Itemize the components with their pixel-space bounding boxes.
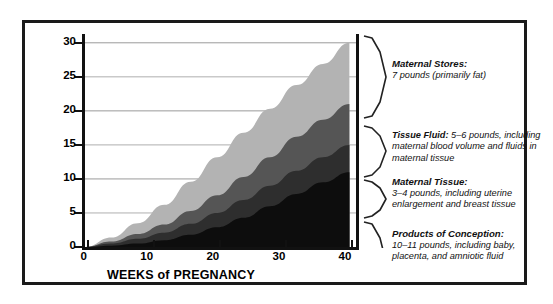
x-tick-label: 10 bbox=[127, 250, 153, 262]
legend-body: 3–4 pounds, including uterine enlargemen… bbox=[392, 188, 542, 211]
y-axis-line bbox=[82, 34, 85, 249]
y-tick-label: 30 bbox=[52, 36, 76, 47]
legend-entry-tissue-fluid: Tissue Fluid: 5–6 pounds, including mate… bbox=[392, 130, 542, 164]
brace-products-of-conception bbox=[362, 164, 388, 248]
legend-heading: Maternal Stores: bbox=[392, 58, 542, 70]
y-tick-label: 25 bbox=[52, 70, 76, 81]
y-tick-label: 5 bbox=[52, 206, 76, 217]
x-tick-label: 30 bbox=[259, 250, 285, 262]
x-tick bbox=[351, 240, 353, 249]
legend-heading: Products of Conception: bbox=[392, 228, 542, 240]
x-tick-label: 40 bbox=[325, 250, 351, 262]
legend-entry-products-of-conception: Products of Conception: 10–11 pounds, in… bbox=[392, 228, 542, 262]
y-tick-label: 20 bbox=[52, 104, 76, 115]
brace-maternal-stores bbox=[362, 34, 388, 120]
x-tick bbox=[87, 240, 89, 249]
x-tick-label: 20 bbox=[193, 250, 219, 262]
plot-area bbox=[85, 36, 356, 247]
legend-body: 10–11 pounds, including baby, placenta, … bbox=[392, 240, 542, 263]
legend: Maternal Stores: 7 pounds (primarily fat… bbox=[362, 34, 540, 250]
x-tick bbox=[153, 240, 155, 249]
y-tick-label: 10 bbox=[52, 172, 76, 183]
legend-heading: Maternal Tissue: bbox=[392, 176, 542, 188]
legend-heading: Tissue Fluid: bbox=[392, 130, 449, 140]
x-axis-title: WEEKS of PREGNANCY bbox=[107, 268, 255, 282]
legend-entry-maternal-tissue: Maternal Tissue: 3–4 pounds, including u… bbox=[392, 176, 542, 210]
x-tick bbox=[219, 240, 221, 249]
y-tick-label: 15 bbox=[52, 138, 76, 149]
x-tick-label: 0 bbox=[61, 250, 87, 262]
legend-entry-maternal-stores: Maternal Stores: 7 pounds (primarily fat… bbox=[392, 58, 542, 81]
plot-right-border bbox=[356, 34, 359, 250]
stacked-area-svg bbox=[85, 36, 356, 247]
chart-figure: 302520151050 010203040 POUNDS WEEKS of P… bbox=[0, 0, 553, 304]
legend-body: 7 pounds (primarily fat) bbox=[392, 70, 542, 81]
x-tick bbox=[285, 240, 287, 249]
